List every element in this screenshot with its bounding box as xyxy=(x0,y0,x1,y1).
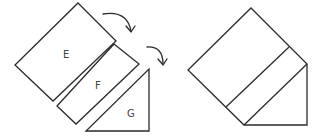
left-group: E F G xyxy=(15,3,167,131)
dissection-diagram: E F G xyxy=(0,0,331,138)
divider-f-g xyxy=(244,64,307,125)
curved-arrow-icon xyxy=(147,47,167,65)
label-g: G xyxy=(127,108,135,119)
label-e: E xyxy=(63,49,69,60)
assembled-outline xyxy=(188,8,307,125)
divider-e-f xyxy=(226,47,289,107)
curved-arrow-icon xyxy=(103,13,135,32)
label-f: F xyxy=(95,80,101,91)
piece-g xyxy=(86,69,149,131)
right-group-assembled-shape xyxy=(188,8,307,125)
